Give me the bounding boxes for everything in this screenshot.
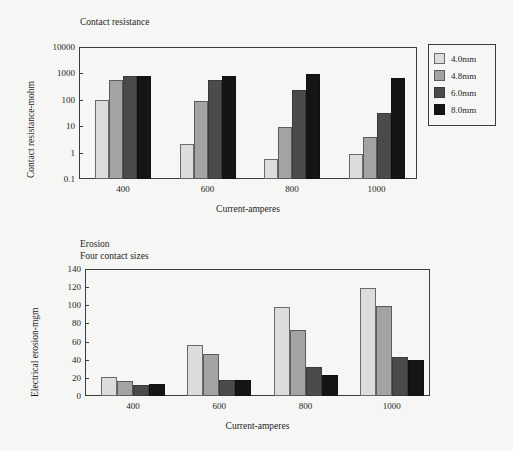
x-tick-label: 800 — [267, 184, 317, 194]
y-tick-label: 100 — [33, 95, 75, 105]
bar-1000-8-0mm — [408, 360, 424, 396]
y-tick-mark — [85, 305, 89, 306]
y-tick-mark — [79, 126, 83, 127]
legend-item-6-0mm: 6.0mm — [434, 84, 489, 101]
y-tick-label: 0 — [39, 391, 81, 401]
chart2-x-axis-title: Current-amperes — [85, 421, 430, 431]
y-tick-mark — [85, 360, 89, 361]
figure-page: Contact resistance Contact resistance-mo… — [0, 0, 513, 451]
y-tick-label: 140 — [39, 264, 81, 274]
legend-item-label: 4.0mm — [451, 54, 476, 64]
bar-800-8-0mm — [322, 375, 338, 396]
bar-400-6-0mm — [123, 76, 137, 179]
bar-600-8-0mm — [235, 380, 251, 396]
bar-1000-4-8mm — [363, 137, 377, 179]
x-tick-label: 1000 — [352, 184, 402, 194]
chart-erosion: Erosion Four contact sizes Electrical er… — [0, 225, 513, 451]
y-tick-mark — [79, 73, 83, 74]
chart1-title: Contact resistance — [80, 17, 149, 28]
bar-600-4-0mm — [187, 345, 203, 396]
y-tick-label: 100 — [39, 300, 81, 310]
x-tick-label: 800 — [281, 401, 331, 411]
bar-800-6-0mm — [306, 367, 322, 396]
legend-item-4-8mm: 4.8mm — [434, 67, 489, 84]
y-tick-label: 10000 — [33, 42, 75, 52]
bar-800-4-0mm — [274, 307, 290, 396]
chart1-legend: 4.0mm4.8mm6.0mm8.0mm — [428, 44, 496, 126]
chart-contact-resistance: Contact resistance Contact resistance-mo… — [0, 0, 513, 225]
y-tick-label: 40 — [39, 355, 81, 365]
bar-400-4-0mm — [101, 377, 117, 396]
bar-800-4-8mm — [278, 127, 292, 179]
y-tick-label: 1 — [33, 148, 75, 158]
y-tick-mark — [85, 287, 89, 288]
y-tick-mark — [85, 342, 89, 343]
legend-item-label: 6.0mm — [451, 88, 476, 98]
x-tick-label: 400 — [98, 184, 148, 194]
y-tick-label: 120 — [39, 282, 81, 292]
bar-1000-6-0mm — [392, 357, 408, 396]
y-tick-label: 60 — [39, 337, 81, 347]
legend-item-4-0mm: 4.0mm — [434, 50, 489, 67]
y-tick-mark — [85, 378, 89, 379]
legend-swatch-icon — [434, 70, 445, 81]
bar-600-6-0mm — [219, 380, 235, 396]
y-tick-label: 10 — [33, 121, 75, 131]
chart1-x-axis-title: Current-amperes — [79, 204, 417, 214]
legend-swatch-icon — [434, 104, 445, 115]
legend-item-label: 4.8mm — [451, 71, 476, 81]
bar-800-4-8mm — [290, 330, 306, 396]
bar-400-4-0mm — [95, 100, 109, 179]
y-tick-mark — [85, 323, 89, 324]
legend-swatch-icon — [434, 87, 445, 98]
bar-800-4-0mm — [264, 159, 278, 179]
y-tick-label: 80 — [39, 318, 81, 328]
bar-1000-4-8mm — [376, 306, 392, 396]
bar-800-6-0mm — [292, 90, 306, 179]
bar-1000-4-0mm — [360, 288, 376, 396]
legend-swatch-icon — [434, 53, 445, 64]
y-tick-label: 20 — [39, 373, 81, 383]
bar-600-4-8mm — [203, 354, 219, 396]
bar-400-4-8mm — [117, 381, 133, 396]
y-tick-mark — [79, 100, 83, 101]
bar-400-6-0mm — [133, 385, 149, 396]
x-tick-label: 400 — [108, 401, 158, 411]
chart2-title-line1: Erosion — [80, 239, 110, 250]
x-tick-label: 600 — [194, 401, 244, 411]
bar-1000-8-0mm — [391, 78, 405, 179]
legend-item-8-0mm: 8.0mm — [434, 101, 489, 118]
bar-1000-4-0mm — [349, 154, 363, 179]
bar-600-4-8mm — [194, 101, 208, 179]
bar-400-8-0mm — [137, 76, 151, 179]
y-tick-label: 0.1 — [33, 174, 75, 184]
bar-400-4-8mm — [109, 80, 123, 179]
y-tick-label: 1000 — [33, 68, 75, 78]
x-tick-label: 1000 — [367, 401, 417, 411]
chart2-title-line2: Four contact sizes — [80, 251, 149, 262]
legend-item-label: 8.0mm — [451, 105, 476, 115]
y-tick-mark — [79, 153, 83, 154]
bar-1000-6-0mm — [377, 113, 391, 179]
bar-600-4-0mm — [180, 144, 194, 179]
bar-400-8-0mm — [149, 384, 165, 396]
bar-800-8-0mm — [306, 74, 320, 179]
bar-600-6-0mm — [208, 80, 222, 179]
x-tick-label: 600 — [183, 184, 233, 194]
bar-600-8-0mm — [222, 76, 236, 179]
